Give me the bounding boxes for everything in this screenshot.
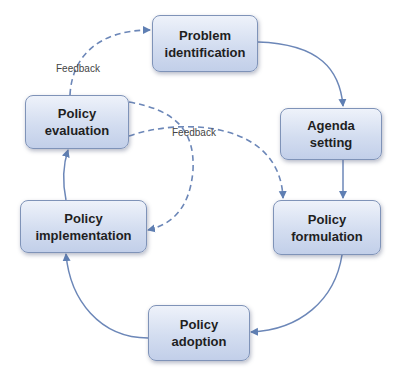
node-problem-identification: Problem identification <box>152 15 258 72</box>
arrow-implementation-to-evaluation <box>64 150 68 200</box>
node-label: implementation <box>35 227 131 244</box>
node-label: setting <box>310 134 353 151</box>
node-label: Policy <box>58 105 96 122</box>
node-policy-evaluation: Policy evaluation <box>25 95 129 149</box>
node-policy-formulation: Policy formulation <box>273 200 381 255</box>
node-label: identification <box>165 44 246 61</box>
node-label: Problem <box>179 27 231 44</box>
node-label: Policy <box>180 316 218 333</box>
arrow-formulation-to-adoption <box>251 255 342 332</box>
node-policy-adoption: Policy adoption <box>148 305 250 361</box>
feedback-label-mid: Feedback <box>172 127 216 138</box>
feedback-label-top: Feedback <box>56 63 100 74</box>
node-policy-implementation: Policy implementation <box>20 200 147 253</box>
node-label: Policy <box>64 210 102 227</box>
arrow-adoption-to-implementation <box>66 254 148 338</box>
node-label: formulation <box>291 228 363 245</box>
node-agenda-setting: Agenda setting <box>280 108 382 160</box>
node-label: Policy <box>308 211 346 228</box>
node-label: adoption <box>172 333 227 350</box>
node-label: evaluation <box>45 122 109 139</box>
node-label: Agenda <box>307 117 355 134</box>
arrow-problem-to-agenda <box>258 42 343 106</box>
